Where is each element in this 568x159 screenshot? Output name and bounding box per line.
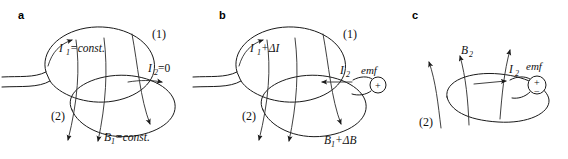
panel-c-loop-2-label: (2) bbox=[419, 115, 433, 129]
physics-figure-svg: a I 1 =const. (1) (2) I 2 =0 B 1 =const. bbox=[0, 0, 568, 159]
panel-a-B1-symbol: B bbox=[104, 131, 111, 143]
panel-c-emf-minus: − bbox=[534, 86, 540, 97]
panel-a-label-primary-current: I 1 =const. bbox=[58, 42, 105, 57]
panel-b-loop-2 bbox=[261, 75, 366, 136]
panel-b-loop-2-label: (2) bbox=[242, 109, 256, 123]
panel-a-loop-2 bbox=[70, 75, 175, 136]
panel-c-current-arrow-secondary bbox=[474, 81, 506, 84]
panel-b-label-field: B 1 +ΔB bbox=[324, 134, 357, 149]
panel-c-B2-subscript: 2 bbox=[469, 50, 473, 59]
panel-b-I1-rest: +ΔI bbox=[261, 42, 281, 54]
panel-b-B1-rest: +ΔB bbox=[335, 134, 357, 146]
panel-c-group: c B 2 I 2 emf + − (2) bbox=[412, 9, 549, 129]
panel-b-B1-symbol: B bbox=[324, 134, 331, 146]
panel-b-letter: b bbox=[219, 9, 226, 21]
panel-a-I2-symbol: I bbox=[147, 62, 153, 74]
panel-a-loop-1-label: (1) bbox=[152, 27, 166, 41]
panel-a-B1-rest: =const. bbox=[115, 131, 150, 143]
panel-b-label-primary-current: I 1 +ΔI bbox=[249, 42, 281, 57]
panel-b-I2-subscript: 2 bbox=[346, 70, 350, 79]
panel-b-emf-source bbox=[352, 77, 386, 95]
panel-c-B2-symbol: B bbox=[461, 44, 468, 56]
panel-a-group: a I 1 =const. (1) (2) I 2 =0 B 1 =const. bbox=[2, 9, 175, 146]
panel-c-I2-subscript: 2 bbox=[515, 69, 519, 78]
panel-c-I2-symbol: I bbox=[508, 63, 514, 75]
panel-b-lead-wires bbox=[193, 72, 241, 87]
panel-a-current-arrow-secondary bbox=[128, 81, 162, 83]
panel-b-emf-text: emf bbox=[361, 64, 379, 76]
panel-c-letter: c bbox=[412, 9, 418, 21]
panel-b-group: b I 1 +ΔI (1) (2) I 2 emf + bbox=[193, 9, 386, 149]
panel-a-label-field: B 1 =const. bbox=[104, 131, 150, 146]
panel-a-letter: a bbox=[18, 9, 25, 21]
panel-c-emf-source bbox=[510, 76, 546, 98]
panel-a-I2-rest: =0 bbox=[158, 62, 170, 74]
panel-a-I1-rest: =const. bbox=[70, 42, 105, 54]
panel-c-field-lines bbox=[429, 50, 510, 128]
panel-c-label-field: B 2 bbox=[461, 44, 473, 59]
figure-container: a I 1 =const. (1) (2) I 2 =0 B 1 =const. bbox=[0, 0, 568, 159]
panel-b-loop-1 bbox=[236, 27, 346, 102]
panel-b-emf-plus: + bbox=[375, 80, 381, 91]
panel-a-loop-1 bbox=[45, 27, 155, 102]
panel-c-emf-text: emf bbox=[526, 60, 544, 72]
panel-b-loop-1-label: (1) bbox=[343, 27, 357, 41]
panel-a-loop-2-label: (2) bbox=[51, 109, 65, 123]
panel-b-label-secondary-current: I 2 bbox=[339, 64, 350, 79]
panel-a-lead-wires bbox=[2, 72, 50, 87]
panel-a-label-secondary-current: I 2 =0 bbox=[147, 62, 170, 77]
